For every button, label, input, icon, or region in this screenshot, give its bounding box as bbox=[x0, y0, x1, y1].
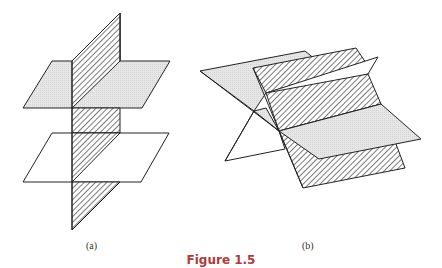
panel-b-label: (b) bbox=[302, 240, 314, 251]
panel-a-diagram bbox=[23, 13, 170, 230]
vertical-plane-middle bbox=[72, 108, 120, 133]
panel-b-diagram bbox=[200, 48, 421, 188]
vertical-plane-bottom bbox=[72, 182, 120, 230]
figure-caption: Figure 1.5 bbox=[0, 253, 442, 267]
panel-a-label: (a) bbox=[86, 240, 97, 251]
figure-canvas bbox=[0, 0, 442, 268]
